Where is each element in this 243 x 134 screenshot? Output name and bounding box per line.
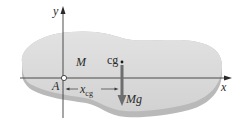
- y-axis-label: y: [53, 5, 58, 17]
- mass-label: M: [76, 56, 86, 68]
- force-label: Mg: [126, 93, 142, 105]
- force-arrow-shaft: [121, 65, 124, 97]
- cg-dot-icon: [121, 61, 124, 64]
- x-axis-label: x: [221, 81, 226, 93]
- y-axis-arrowhead-icon: [61, 6, 66, 14]
- cg-label: cg: [107, 54, 118, 66]
- dimension-label-sub: cg: [85, 89, 93, 98]
- rigid-body-diagram: y x A M cg Mg xcg: [0, 0, 243, 134]
- pivot-label: A: [52, 80, 59, 92]
- pivot-point-icon: [61, 75, 66, 80]
- dimension-label: xcg: [80, 83, 93, 98]
- diagram-canvas: [0, 0, 243, 134]
